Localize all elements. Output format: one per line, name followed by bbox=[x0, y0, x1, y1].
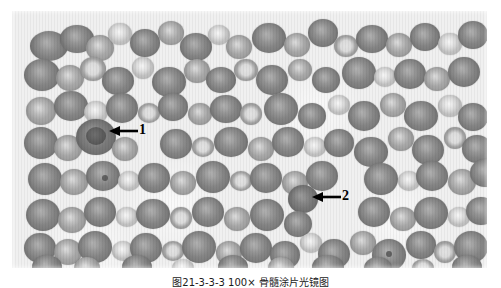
annotation-arrow-1 bbox=[108, 124, 140, 138]
erythrocyte bbox=[182, 231, 216, 263]
erythrocyte bbox=[390, 207, 416, 231]
erythrocyte bbox=[240, 103, 262, 125]
erythrocyte bbox=[136, 199, 170, 229]
erythrocyte bbox=[24, 59, 60, 91]
erythrocyte bbox=[394, 59, 426, 89]
erythrocyte bbox=[210, 95, 242, 123]
erythrocyte bbox=[224, 207, 250, 231]
erythrocyte bbox=[416, 161, 448, 191]
erythrocyte bbox=[234, 59, 258, 81]
arrow-left-icon bbox=[108, 124, 140, 138]
erythrocyte bbox=[412, 259, 434, 268]
erythrocyte bbox=[298, 103, 326, 129]
chromatin-speck bbox=[386, 251, 392, 257]
erythrocyte bbox=[54, 91, 88, 121]
erythrocyte bbox=[26, 97, 56, 125]
cell-nucleus bbox=[86, 127, 106, 145]
erythrocyte bbox=[288, 59, 312, 81]
erythrocyte bbox=[248, 137, 274, 161]
erythrocyte bbox=[58, 207, 86, 233]
erythrocyte bbox=[230, 171, 252, 191]
erythrocyte bbox=[132, 57, 154, 79]
erythrocyte bbox=[28, 163, 62, 195]
erythrocyte bbox=[284, 33, 310, 57]
erythrocyte bbox=[406, 231, 436, 259]
erythrocyte bbox=[328, 95, 350, 115]
arrow-left-icon bbox=[311, 190, 343, 204]
figure-caption: 图21-3-3-3 100× 骨髓涂片光镜图 bbox=[0, 277, 501, 288]
erythrocyte bbox=[192, 197, 224, 227]
erythrocyte bbox=[334, 35, 358, 57]
erythrocyte bbox=[404, 101, 438, 131]
erythrocyte bbox=[180, 33, 212, 61]
erythrocyte bbox=[410, 23, 440, 51]
erythrocyte bbox=[86, 161, 120, 191]
erythrocyte bbox=[312, 67, 340, 93]
erythrocyte bbox=[226, 35, 252, 59]
erythrocyte bbox=[240, 233, 272, 263]
erythrocyte bbox=[380, 93, 406, 117]
erythrocyte bbox=[112, 137, 138, 161]
erythrocyte bbox=[424, 67, 450, 91]
erythrocyte bbox=[170, 207, 192, 229]
erythrocyte bbox=[138, 103, 160, 123]
erythrocyte bbox=[386, 33, 412, 57]
erythrocyte bbox=[24, 127, 58, 159]
erythrocyte bbox=[130, 29, 160, 57]
erythrocyte bbox=[304, 137, 326, 157]
erythrocyte bbox=[106, 93, 138, 123]
erythrocyte bbox=[158, 93, 188, 121]
figure-root: 1 2 图21-3-3-3 100× 骨髓涂片光镜图 bbox=[0, 0, 501, 288]
erythrocyte bbox=[206, 67, 236, 93]
erythrocyte bbox=[192, 137, 214, 157]
erythrocyte bbox=[348, 101, 380, 131]
erythrocyte bbox=[458, 21, 487, 49]
erythrocyte bbox=[434, 241, 456, 263]
annotation-label-2: 2 bbox=[342, 189, 349, 203]
erythrocyte bbox=[358, 197, 390, 227]
erythrocyte bbox=[188, 103, 212, 125]
erythrocyte bbox=[364, 163, 398, 195]
erythrocyte bbox=[60, 169, 88, 195]
erythrocyte bbox=[374, 67, 396, 87]
annotation-label-1: 1 bbox=[139, 123, 146, 137]
erythrocyte bbox=[116, 207, 138, 227]
erythrocyte bbox=[138, 163, 170, 193]
erythrocyte bbox=[214, 127, 248, 157]
chromatin-speck bbox=[102, 175, 108, 181]
erythrocyte bbox=[162, 241, 184, 261]
cell-field bbox=[12, 11, 487, 268]
erythrocyte bbox=[118, 171, 140, 191]
erythrocyte bbox=[102, 67, 134, 95]
erythrocyte bbox=[448, 57, 480, 87]
erythrocyte bbox=[160, 129, 192, 159]
erythrocyte bbox=[250, 163, 282, 193]
erythrocyte bbox=[196, 161, 230, 193]
erythrocyte bbox=[414, 197, 448, 229]
erythrocyte bbox=[26, 199, 60, 231]
erythrocyte bbox=[356, 25, 388, 53]
annotation-arrow-2 bbox=[311, 190, 343, 204]
erythrocyte bbox=[324, 129, 354, 157]
erythrocyte bbox=[252, 23, 286, 53]
erythrocyte bbox=[388, 127, 414, 151]
erythrocyte bbox=[250, 199, 284, 231]
erythrocyte bbox=[264, 93, 298, 125]
erythrocyte bbox=[84, 197, 116, 227]
erythrocyte bbox=[458, 103, 487, 131]
erythrocyte bbox=[256, 65, 288, 95]
erythrocyte bbox=[108, 23, 132, 45]
erythrocyte bbox=[272, 127, 304, 157]
bone-marrow-smear-micrograph bbox=[12, 11, 487, 268]
erythrocyte bbox=[170, 171, 196, 195]
erythrocyte bbox=[342, 57, 376, 89]
